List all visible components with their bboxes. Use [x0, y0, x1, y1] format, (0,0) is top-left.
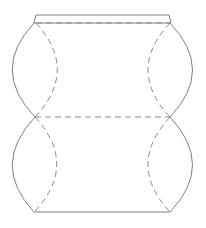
top-flap-cut-line	[34, 15, 171, 23]
lower-left-inner-fold-arc	[34, 117, 57, 212]
pillow-box-template-diagram	[0, 0, 206, 228]
upper-right-inner-fold-arc	[148, 23, 170, 117]
upper-left-outer-arc	[12, 23, 35, 117]
lower-left-outer-arc	[12, 117, 35, 212]
upper-left-inner-fold-arc	[35, 23, 57, 117]
lower-right-outer-arc	[170, 117, 193, 212]
upper-right-outer-arc	[170, 23, 193, 117]
lower-right-inner-fold-arc	[148, 117, 170, 212]
